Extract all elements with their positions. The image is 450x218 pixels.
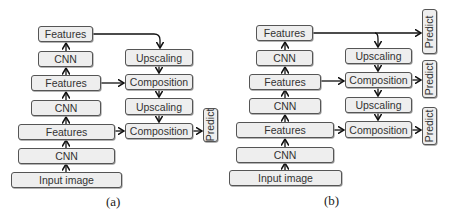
cnn-box: CNN bbox=[31, 100, 101, 116]
input-image-box: Input image bbox=[229, 170, 342, 186]
features-box-low: Features bbox=[18, 124, 115, 140]
caption-b: (b) bbox=[324, 193, 339, 209]
composition-box: Composition bbox=[125, 74, 193, 90]
cnn-box: CNN bbox=[249, 98, 321, 114]
composition-box: Composition bbox=[125, 123, 193, 139]
features-box-mid: Features bbox=[31, 75, 101, 91]
cnn-box: CNN bbox=[256, 50, 313, 66]
composition-box: Composition bbox=[345, 121, 412, 138]
features-box-top: Features bbox=[256, 25, 313, 41]
predict-box-2: Predict bbox=[422, 60, 437, 98]
cnn-box: CNN bbox=[38, 51, 93, 67]
features-box-top: Features bbox=[38, 26, 93, 42]
predict-box-3: Predict bbox=[422, 107, 437, 145]
upscaling-box: Upscaling bbox=[345, 48, 412, 64]
predict-box: Predict bbox=[203, 108, 218, 142]
caption-a: (a) bbox=[106, 194, 120, 210]
features-box-low: Features bbox=[236, 122, 334, 138]
input-image-box: Input image bbox=[11, 172, 122, 188]
cnn-box: CNN bbox=[18, 148, 115, 164]
predict-box-1: Predict bbox=[422, 9, 437, 54]
features-box-mid: Features bbox=[249, 74, 321, 90]
composition-box: Composition bbox=[345, 72, 412, 88]
cnn-box: CNN bbox=[236, 147, 334, 163]
upscaling-box: Upscaling bbox=[125, 49, 193, 66]
upscaling-box: Upscaling bbox=[345, 97, 412, 113]
upscaling-box: Upscaling bbox=[125, 98, 193, 115]
